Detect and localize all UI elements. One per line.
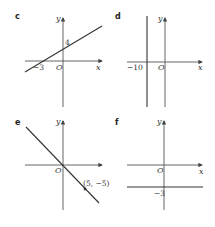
y-intercept-c: 4 [65, 38, 70, 47]
y-label-e: y [55, 117, 61, 126]
origin-f: O [157, 166, 164, 175]
panel-c: c y x O 4 −3 [15, 12, 102, 107]
panel-d: d y x O −10 [115, 12, 203, 107]
panel-label-c: c [15, 12, 20, 21]
origin-e: O [55, 166, 62, 175]
panel-e: e y O (5, −5) [15, 117, 110, 210]
x-label-c: x [96, 63, 101, 72]
y-label-c: y [55, 14, 61, 23]
point-e [84, 188, 87, 191]
panel-f: f y x O −3 [115, 117, 204, 210]
y-label-f: y [156, 117, 162, 126]
origin-c: O [56, 63, 63, 72]
y-label-d: y [157, 14, 163, 23]
y-intercept-f: −3 [154, 189, 165, 198]
x-intercept-d: −10 [127, 63, 143, 72]
panel-label-f: f [115, 118, 119, 127]
point-label-e: (5, −5) [83, 179, 110, 188]
panel-label-e: e [15, 118, 21, 127]
panel-label-d: d [115, 12, 121, 21]
graphs-figure: c y x O 4 −3 d y x O −10 e y O (5, −5) f [0, 0, 215, 227]
x-label-d: x [198, 63, 203, 72]
origin-d: O [158, 63, 165, 72]
x-intercept-c: −3 [33, 63, 44, 72]
x-label-f: x [199, 167, 204, 176]
